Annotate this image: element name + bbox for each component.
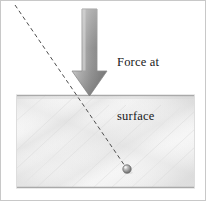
force-label-line-2: surface xyxy=(117,107,203,125)
force-arrow-highlight xyxy=(83,10,86,71)
particle-sphere xyxy=(123,165,131,173)
force-arrow-shading xyxy=(72,9,107,96)
force-arrow xyxy=(72,9,107,96)
particle-highlight xyxy=(124,166,126,168)
force-label-line-1: Force at xyxy=(117,53,203,71)
force-label: Force at surface xyxy=(117,17,203,161)
physics-figure: Force at surface xyxy=(0,0,206,201)
